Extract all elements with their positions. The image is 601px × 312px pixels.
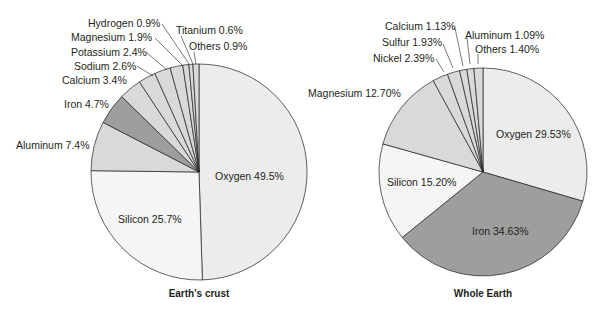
label-whole-aluminum: Aluminum 1.09% bbox=[465, 29, 544, 41]
label-whole-oxygen: Oxygen 29.53% bbox=[496, 128, 571, 140]
title-earths-crust: Earth's crust bbox=[169, 288, 230, 299]
label-crust-hydrogen: Hydrogen 0.9% bbox=[88, 17, 160, 29]
label-crust-calcium: Calcium 3.4% bbox=[62, 74, 127, 86]
label-whole-silicon: Silicon 15.20% bbox=[387, 176, 456, 188]
label-crust-titanium: Titanium 0.6% bbox=[176, 24, 243, 36]
label-crust-others: Others 0.9% bbox=[189, 40, 247, 52]
label-whole-sulfur: Sulfur 1.93% bbox=[382, 36, 442, 48]
label-crust-aluminum: Aluminum 7.4% bbox=[16, 139, 90, 151]
label-whole-iron: Iron 34.63% bbox=[472, 225, 529, 237]
label-crust-magnesium: Magnesium 1.9% bbox=[71, 31, 152, 43]
pie-slice-silicon bbox=[91, 171, 202, 280]
label-whole-magnesium: Magnesium 12.70% bbox=[308, 87, 401, 99]
label-crust-sodium: Sodium 2.6% bbox=[74, 60, 136, 72]
pie-charts-figure: Hydrogen 0.9% Titanium 0.6% Magnesium 1.… bbox=[0, 0, 601, 312]
label-crust-oxygen: Oxygen 49.5% bbox=[215, 170, 284, 182]
label-crust-potassium: Potassium 2.4% bbox=[71, 46, 147, 58]
title-whole-earth: Whole Earth bbox=[454, 288, 512, 299]
label-whole-others: Others 1.40% bbox=[475, 43, 539, 55]
label-whole-nickel: Nickel 2.39% bbox=[373, 52, 434, 64]
label-crust-silicon: Silicon 25.7% bbox=[118, 213, 182, 225]
pie-chart-whole-earth bbox=[379, 68, 587, 276]
label-crust-iron: Iron 4.7% bbox=[64, 98, 109, 110]
label-whole-calcium: Calcium 1.13% bbox=[385, 20, 456, 32]
